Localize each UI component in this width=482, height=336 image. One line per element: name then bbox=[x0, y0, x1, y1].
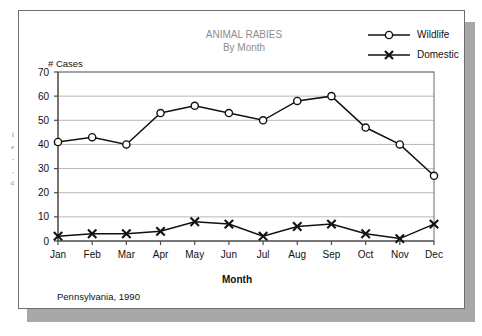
legend-item-domestic[interactable]: Domestic bbox=[367, 45, 477, 65]
edge-scrap-1: e bbox=[11, 143, 14, 151]
figure-card: ANIMAL RABIES By Month Wildlife Domestic bbox=[18, 10, 465, 309]
chart-legend: Wildlife Domestic bbox=[367, 25, 477, 65]
legend-label-domestic: Domestic bbox=[417, 49, 459, 60]
edge-scrap-0: f bbox=[12, 131, 14, 139]
chart-title-line-1: ANIMAL RABIES bbox=[159, 28, 329, 41]
edge-scrap-2: - bbox=[12, 155, 14, 163]
edge-scrap-3: , bbox=[12, 167, 14, 175]
page-edge-scraps: f e - , d bbox=[0, 0, 16, 336]
x-marker-icon bbox=[367, 45, 411, 65]
chart-title-line-2: By Month bbox=[159, 41, 329, 54]
circle-marker-icon bbox=[367, 25, 411, 45]
edge-scrap-4: d bbox=[11, 179, 15, 187]
chart-title: ANIMAL RABIES By Month bbox=[159, 28, 329, 54]
legend-label-wildlife: Wildlife bbox=[417, 29, 449, 40]
legend-item-wildlife[interactable]: Wildlife bbox=[367, 25, 477, 45]
